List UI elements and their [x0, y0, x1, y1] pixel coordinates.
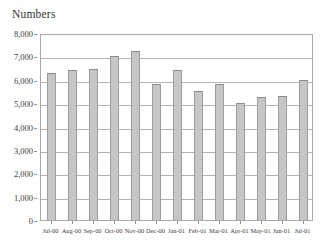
bar — [278, 96, 287, 220]
y-tick-mark — [34, 81, 37, 82]
x-tick-mark — [114, 221, 115, 224]
y-tick-label: 5,000 — [14, 99, 33, 109]
y-tick-label: 3,000 — [14, 146, 33, 156]
x-tick-label: Feb-01 — [188, 227, 206, 234]
y-tick-label: 6,000 — [14, 76, 33, 86]
bar — [257, 97, 266, 220]
y-tick-mark — [34, 174, 37, 175]
y-tick-mark — [34, 198, 37, 199]
y-tick-mark — [34, 34, 37, 35]
y-tick-label: 7,000 — [14, 52, 33, 62]
y-axis: 01,0002,0003,0004,0005,0006,0007,0008,00… — [0, 34, 37, 221]
x-tick-mark — [93, 221, 94, 224]
x-tick-label: Oct-00 — [105, 227, 123, 234]
x-tick-label: Jan-01 — [168, 227, 185, 234]
x-tick-mark — [177, 221, 178, 224]
y-tick-mark — [34, 221, 37, 222]
x-tick-label: Mar-01 — [209, 227, 228, 234]
bar-series — [41, 35, 312, 220]
bar — [194, 91, 203, 220]
bar — [131, 51, 140, 220]
x-tick-mark — [282, 221, 283, 224]
x-tick-mark — [51, 221, 52, 224]
y-tick-label: 4,000 — [14, 123, 33, 133]
y-tick-label: 2,000 — [14, 169, 33, 179]
y-tick-label: 1,000 — [14, 193, 33, 203]
y-tick-mark — [34, 57, 37, 58]
bar — [152, 84, 161, 220]
bar — [47, 73, 56, 220]
x-tick-mark — [135, 221, 136, 224]
x-tick-mark — [303, 221, 304, 224]
bar — [173, 70, 182, 220]
x-tick-mark — [72, 221, 73, 224]
x-tick-mark — [240, 221, 241, 224]
x-tick-label: Nov-00 — [125, 227, 145, 234]
x-tick-mark — [219, 221, 220, 224]
chart-title: Numbers — [12, 8, 56, 20]
y-tick-mark — [34, 128, 37, 129]
bar — [299, 80, 308, 220]
y-tick-label: 8,000 — [14, 29, 33, 39]
bar — [236, 103, 245, 220]
x-axis: Jul-00Aug-00Sep-00Oct-00Nov-00Dec-00Jan-… — [40, 221, 313, 247]
x-tick-label: Jul-01 — [295, 227, 311, 234]
x-tick-label: Jul-00 — [43, 227, 59, 234]
bar — [89, 69, 98, 220]
x-tick-label: Sep-00 — [83, 227, 101, 234]
bar — [215, 84, 224, 220]
x-tick-label: Jun-01 — [273, 227, 290, 234]
bar — [68, 70, 77, 220]
y-tick-mark — [34, 104, 37, 105]
x-tick-mark — [198, 221, 199, 224]
x-tick-mark — [156, 221, 157, 224]
x-tick-label: Dec-00 — [146, 227, 165, 234]
chart-figure: Numbers 01,0002,0003,0004,0005,0006,0007… — [0, 0, 325, 252]
x-tick-label: Apr-01 — [230, 227, 248, 234]
bar — [110, 56, 119, 220]
x-tick-mark — [261, 221, 262, 224]
plot-area — [40, 34, 313, 221]
x-tick-label: May-01 — [250, 227, 270, 234]
y-tick-mark — [34, 151, 37, 152]
x-tick-label: Aug-00 — [62, 227, 82, 234]
y-tick-label: 0 — [29, 216, 33, 226]
